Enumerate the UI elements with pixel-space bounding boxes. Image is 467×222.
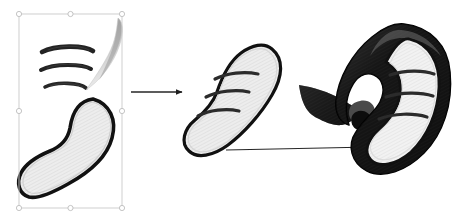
handle-top-left[interactable] (16, 11, 21, 16)
handle-middle-right[interactable] (119, 108, 124, 113)
illustration-canvas: Shape Construction Diagram (0, 0, 467, 222)
handle-bottom-left[interactable] (16, 205, 21, 210)
diagram-svg (0, 0, 467, 222)
handle-bottom-center[interactable] (68, 205, 73, 210)
handle-bottom-right[interactable] (119, 205, 124, 210)
handle-top-center[interactable] (68, 11, 73, 16)
handle-top-right[interactable] (119, 11, 124, 16)
handle-middle-left[interactable] (16, 108, 21, 113)
